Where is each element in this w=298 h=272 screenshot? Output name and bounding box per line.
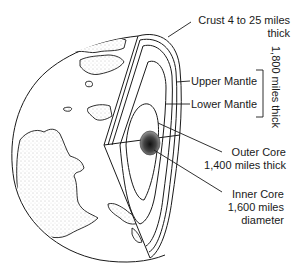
crust-label-line2: thick xyxy=(186,27,290,40)
outer-core-label: Outer Core 1,400 miles thick xyxy=(176,146,286,172)
earth-cross-section xyxy=(0,0,298,272)
crust-label: Crust 4 to 25 miles thick xyxy=(186,14,290,40)
lower-mantle-label: Lower Mantle xyxy=(191,98,257,111)
inner-core-label: Inner Core 1,600 miles diameter xyxy=(186,188,284,227)
inner-core-label-line1: Inner Core xyxy=(186,188,284,201)
upper-mantle-label: Upper Mantle xyxy=(191,75,257,88)
inner-core-label-line2: 1,600 miles xyxy=(186,201,284,214)
outer-core-label-line2: 1,400 miles thick xyxy=(176,159,286,172)
crust-label-line1: Crust 4 to 25 miles xyxy=(186,14,290,27)
outer-core-label-line1: Outer Core xyxy=(176,146,286,159)
mantle-thickness-label: 1,800 miles thick xyxy=(270,46,282,128)
inner-core-label-line3: diameter xyxy=(186,214,284,227)
